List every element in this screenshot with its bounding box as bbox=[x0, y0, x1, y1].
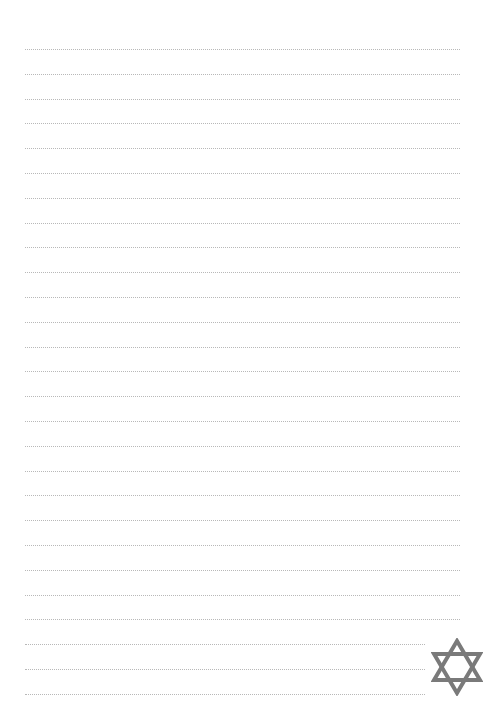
ruled-line bbox=[25, 619, 460, 620]
ruled-line bbox=[25, 421, 460, 422]
ruled-line bbox=[25, 297, 460, 298]
ruled-line bbox=[25, 669, 425, 670]
star-of-david-icon bbox=[431, 638, 483, 696]
ruled-line bbox=[25, 272, 460, 273]
ruled-line bbox=[25, 520, 460, 521]
ruled-line bbox=[25, 247, 460, 248]
ruled-line bbox=[25, 595, 460, 596]
ruled-line bbox=[25, 123, 460, 124]
ruled-line bbox=[25, 173, 460, 174]
ruled-line bbox=[25, 396, 460, 397]
ruled-line bbox=[25, 223, 460, 224]
ruled-line bbox=[25, 471, 460, 472]
ruled-line bbox=[25, 322, 460, 323]
ruled-line bbox=[25, 198, 460, 199]
ruled-line bbox=[25, 74, 460, 75]
ruled-line bbox=[25, 49, 460, 50]
ruled-line bbox=[25, 570, 460, 571]
ruled-line bbox=[25, 99, 460, 100]
ruled-line bbox=[25, 495, 460, 496]
ruled-line bbox=[25, 148, 460, 149]
ruled-line bbox=[25, 545, 460, 546]
ruled-line bbox=[25, 347, 460, 348]
ruled-line bbox=[25, 644, 425, 645]
ruled-line bbox=[25, 446, 460, 447]
ruled-line bbox=[25, 371, 460, 372]
ruled-line bbox=[25, 694, 425, 695]
